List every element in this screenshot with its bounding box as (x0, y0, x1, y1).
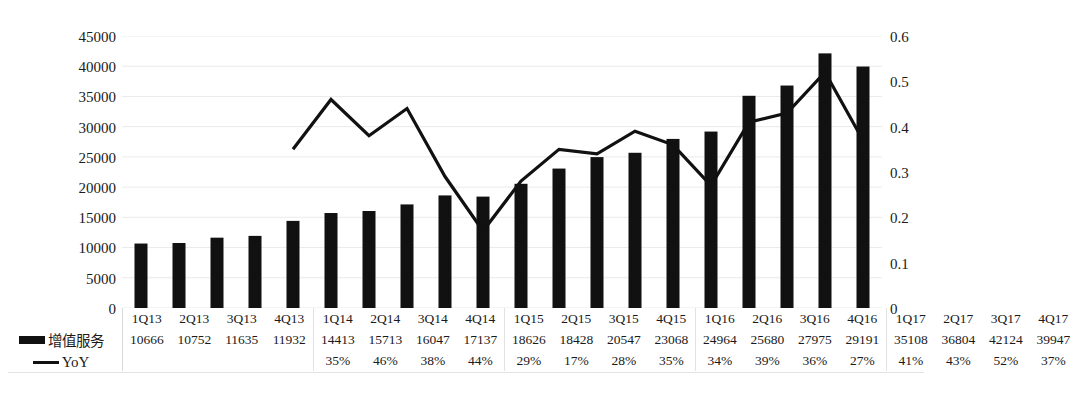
bar (135, 244, 148, 308)
legend-bar-label: 增值服务 (48, 329, 104, 350)
plot-svg (122, 36, 882, 308)
quarter-cell: 2Q13 (171, 308, 219, 329)
yoy-cell: 36% (791, 350, 839, 371)
bar (173, 243, 186, 308)
yoy-cell: 37% (1030, 350, 1075, 371)
value-cell: 35108 (887, 329, 935, 350)
bar (667, 139, 680, 308)
yoy-cell (218, 350, 266, 371)
bar (629, 153, 642, 308)
yoy-cell: 35% (314, 350, 362, 371)
right-axis-tick: 0.2 (890, 211, 909, 226)
value-cell: 17137 (457, 329, 505, 350)
value-cell: 20547 (600, 329, 648, 350)
value-cell: 42124 (982, 329, 1030, 350)
left-axis-tick: 20000 (79, 181, 117, 196)
value-cell: 25680 (744, 329, 792, 350)
bar (705, 132, 718, 308)
left-axis: 45000 40000 35000 30000 25000 20000 1500… (60, 36, 116, 308)
table-row-yoy: YoY 35%46%38%44%29%17%28%35%34%39%36%27%… (0, 350, 1075, 371)
quarter-cell: 1Q14 (314, 308, 362, 329)
quarter-cell: 3Q17 (982, 308, 1030, 329)
value-cell: 39947 (1030, 329, 1075, 350)
left-axis-tick: 40000 (79, 60, 117, 75)
line-swatch-icon (33, 361, 59, 364)
bar (781, 86, 794, 308)
bar (591, 157, 604, 308)
bar (211, 238, 224, 308)
value-cell: 10666 (123, 329, 171, 350)
legend-line-label: YoY (62, 354, 90, 371)
left-axis-tick: 25000 (79, 151, 117, 166)
table-row-quarters: 1Q132Q133Q134Q131Q142Q143Q144Q141Q152Q15… (0, 308, 1075, 329)
quarter-cell: 3Q14 (409, 308, 457, 329)
quarter-cell: 4Q17 (1030, 308, 1075, 329)
quarter-cell: 1Q17 (887, 308, 935, 329)
data-table: 1Q132Q133Q134Q131Q142Q143Q144Q141Q152Q15… (0, 308, 932, 374)
quarter-cell: 4Q13 (266, 308, 314, 329)
bar (287, 221, 300, 308)
quarter-cell: 4Q14 (457, 308, 505, 329)
gridlines (122, 36, 882, 308)
quarter-cell: 1Q13 (123, 308, 171, 329)
right-axis: 0.6 0.5 0.4 0.3 0.2 0.1 0 (890, 36, 930, 308)
quarter-cell: 3Q15 (600, 308, 648, 329)
yoy-cell (171, 350, 219, 371)
right-axis-tick: 0.6 (890, 30, 909, 45)
quarter-row-label (0, 308, 123, 329)
bar (819, 53, 832, 308)
bar (553, 169, 566, 308)
bar (477, 197, 490, 308)
bar (857, 67, 870, 308)
yoy-cell: 27% (839, 350, 887, 371)
quarter-cell: 1Q15 (505, 308, 553, 329)
yoy-cell (266, 350, 314, 371)
yoy-cell: 39% (744, 350, 792, 371)
right-axis-tick: 0.5 (890, 75, 909, 90)
quarter-cell: 4Q16 (839, 308, 887, 329)
quarter-cell: 2Q17 (935, 308, 983, 329)
left-axis-tick: 45000 (79, 30, 117, 45)
value-cell: 29191 (839, 329, 887, 350)
table-row-values: 增值服务 10666107521163511932144131571316047… (0, 329, 1075, 350)
right-axis-tick: 0.3 (890, 166, 909, 181)
yoy-cell: 43% (935, 350, 983, 371)
value-cell: 23068 (648, 329, 696, 350)
yoy-cell: 35% (648, 350, 696, 371)
table-bottom-rule (8, 372, 924, 373)
right-axis-tick: 0.1 (890, 257, 909, 272)
value-cell: 18626 (505, 329, 553, 350)
right-axis-tick: 0.4 (890, 121, 909, 136)
value-cell: 36804 (935, 329, 983, 350)
yoy-cell (123, 350, 171, 371)
quarter-cell: 2Q14 (362, 308, 410, 329)
value-cell: 11635 (218, 329, 266, 350)
left-axis-tick: 10000 (79, 241, 117, 256)
yoy-cell: 46% (362, 350, 410, 371)
left-axis-tick: 5000 (86, 272, 116, 287)
value-cell: 14413 (314, 329, 362, 350)
yoy-cell: 34% (696, 350, 744, 371)
bar (401, 204, 414, 308)
yoy-cell: 44% (457, 350, 505, 371)
bar-series (135, 53, 870, 308)
quarter-cell: 2Q16 (744, 308, 792, 329)
yoy-cell: 17% (553, 350, 601, 371)
left-axis-tick: 15000 (79, 211, 117, 226)
plot-area (122, 36, 882, 308)
yoy-cell: 52% (982, 350, 1030, 371)
quarter-cell: 3Q16 (791, 308, 839, 329)
left-axis-tick: 35000 (79, 90, 117, 105)
legend-bar-entry[interactable]: 增值服务 (0, 329, 123, 350)
left-axis-tick: 30000 (79, 121, 117, 136)
value-cell: 27975 (791, 329, 839, 350)
bar (325, 213, 338, 308)
value-cell: 18428 (553, 329, 601, 350)
value-cell: 11932 (266, 329, 314, 350)
bar (249, 236, 262, 308)
value-cell: 10752 (171, 329, 219, 350)
legend-line-entry[interactable]: YoY (0, 350, 123, 371)
bar-swatch-icon (19, 336, 45, 344)
quarter-cell: 3Q13 (218, 308, 266, 329)
